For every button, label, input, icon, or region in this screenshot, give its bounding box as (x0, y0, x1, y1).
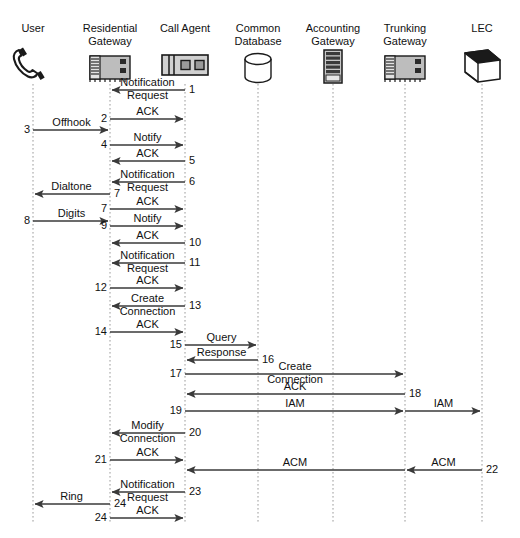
message-label-line: ACK (100, 319, 196, 331)
message-label-line: Response (174, 347, 270, 359)
participant-label-line: Gateway (360, 35, 450, 48)
sequence-number-8: 8 (16, 215, 30, 226)
sequence-number-11: 11 (189, 257, 200, 268)
sequence-number-4: 4 (93, 139, 107, 150)
gateway-device-icon (385, 56, 425, 82)
message-label-16: Response (174, 347, 270, 359)
message-label-line: IAM (247, 398, 343, 410)
message-label-line: Connection (100, 433, 196, 445)
participant-header-lec: LEC (437, 22, 520, 35)
message-label-line: Create (100, 293, 196, 305)
sequence-number-7: 7 (114, 188, 120, 199)
participant-label-line: Gateway (65, 35, 155, 48)
server-rack-icon (324, 50, 342, 83)
message-label-22b: ACM (247, 457, 343, 469)
sequence-number-19: 19 (168, 405, 182, 416)
message-label-9: Notify (100, 213, 196, 225)
sequence-number-6: 6 (189, 176, 195, 187)
message-label-14: ACK (100, 319, 196, 331)
call-agent-device-icon (162, 55, 208, 75)
telephone-handset-icon (14, 47, 45, 80)
message-label-line: Request (100, 90, 196, 102)
message-label-22: ACM (396, 457, 492, 469)
message-label-15: Query (174, 332, 270, 344)
message-label-line: Dialtone (24, 181, 120, 193)
message-label-line: ACK (100, 148, 196, 160)
message-label-19b: IAM (396, 398, 492, 410)
sequence-diagram-canvas: UserResidentialGatewayCall AgentCommonDa… (0, 0, 520, 538)
sequence-number-23: 23 (189, 486, 201, 497)
message-label-line: ACM (396, 457, 492, 469)
network-cloud-box-icon (465, 50, 500, 82)
message-label-11: NotificationRequest (100, 250, 196, 274)
sequence-number-7: 7 (93, 203, 107, 214)
sequence-number-3: 3 (16, 124, 30, 135)
database-cylinder-icon (245, 54, 271, 83)
message-label-line: Notification (100, 77, 196, 89)
sequence-number-5: 5 (189, 155, 195, 166)
sequence-number-24: 24 (114, 498, 126, 509)
message-label-line: ACK (100, 230, 196, 242)
sequence-number-15: 15 (168, 339, 182, 350)
message-label-12: ACK (100, 275, 196, 287)
message-label-line: Notification (100, 250, 196, 262)
message-label-18: ACK (247, 381, 343, 393)
sequence-number-14: 14 (93, 326, 107, 337)
participant-icons (14, 47, 500, 83)
message-label-19: IAM (247, 398, 343, 410)
sequence-number-17: 17 (168, 368, 182, 379)
participant-label-line: LEC (437, 22, 520, 35)
message-label-7: Dialtone (24, 181, 120, 193)
message-label-line: Modify (100, 420, 196, 432)
message-label-5: ACK (100, 148, 196, 160)
message-label-line: ACK (100, 106, 196, 118)
sequence-number-9: 9 (93, 220, 107, 231)
message-label-line: Query (174, 332, 270, 344)
message-label-line: Notification (100, 479, 196, 491)
message-label-24: Ring (24, 491, 120, 503)
message-label-line: Notify (100, 213, 196, 225)
sequence-number-2: 2 (93, 113, 107, 124)
sequence-number-24: 24 (93, 512, 107, 523)
sequence-number-1: 1 (189, 84, 195, 95)
message-label-2: ACK (100, 106, 196, 118)
message-label-line: ACK (247, 381, 343, 393)
message-label-line: Notify (100, 132, 196, 144)
message-label-line: ACK (100, 275, 196, 287)
message-label-line: Request (100, 263, 196, 275)
message-label-10: ACK (100, 230, 196, 242)
message-label-13: CreateConnection (100, 293, 196, 317)
sequence-number-22: 22 (486, 464, 498, 475)
message-label-line: ACM (247, 457, 343, 469)
sequence-number-13: 13 (189, 300, 201, 311)
message-label-line: Connection (100, 306, 196, 318)
sequence-number-20: 20 (189, 427, 201, 438)
sequence-number-10: 10 (189, 237, 201, 248)
message-label-21: ACK (100, 447, 196, 459)
message-label-line: ACK (100, 447, 196, 459)
message-label-20: ModifyConnection (100, 420, 196, 444)
message-label-line: IAM (396, 398, 492, 410)
message-label-4: Notify (100, 132, 196, 144)
sequence-number-21: 21 (93, 454, 107, 465)
sequence-number-16: 16 (262, 354, 274, 365)
message-label-line: Ring (24, 491, 120, 503)
sequence-number-12: 12 (93, 282, 107, 293)
message-label-line: Notification (100, 169, 196, 181)
message-label-1: NotificationRequest (100, 77, 196, 101)
sequence-number-18: 18 (409, 388, 421, 399)
